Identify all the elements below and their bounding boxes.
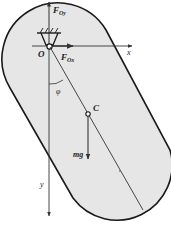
center-of-mass bbox=[86, 112, 90, 116]
pendulum-diagram: FOy FOx O x y φ C mg bbox=[0, 0, 171, 226]
angle-label: φ bbox=[56, 87, 61, 96]
weight-label: mg bbox=[73, 150, 83, 159]
center-label: C bbox=[93, 103, 100, 113]
pivot-label: O bbox=[38, 49, 45, 59]
center-line-dot bbox=[119, 170, 121, 172]
y-axis-label: y bbox=[39, 180, 44, 189]
x-axis-label: x bbox=[126, 48, 131, 57]
